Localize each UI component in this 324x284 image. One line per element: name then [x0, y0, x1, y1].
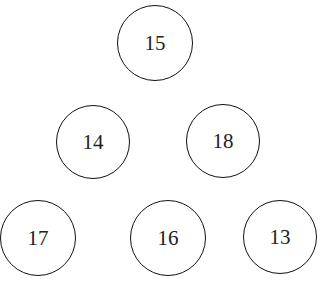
node-label: 14: [83, 130, 104, 155]
circle-node-mid-right: 18: [186, 104, 260, 178]
circle-node-bottom-left: 17: [0, 200, 76, 276]
node-label: 13: [270, 225, 291, 250]
node-label: 17: [28, 226, 49, 251]
circle-node-bottom-middle: 16: [130, 200, 206, 276]
circle-node-bottom-right: 13: [243, 200, 317, 274]
circle-node-mid-left: 14: [56, 105, 130, 179]
node-label: 15: [145, 31, 166, 56]
node-label: 16: [158, 226, 179, 251]
node-label: 18: [213, 129, 234, 154]
circle-node-top: 15: [117, 5, 193, 81]
